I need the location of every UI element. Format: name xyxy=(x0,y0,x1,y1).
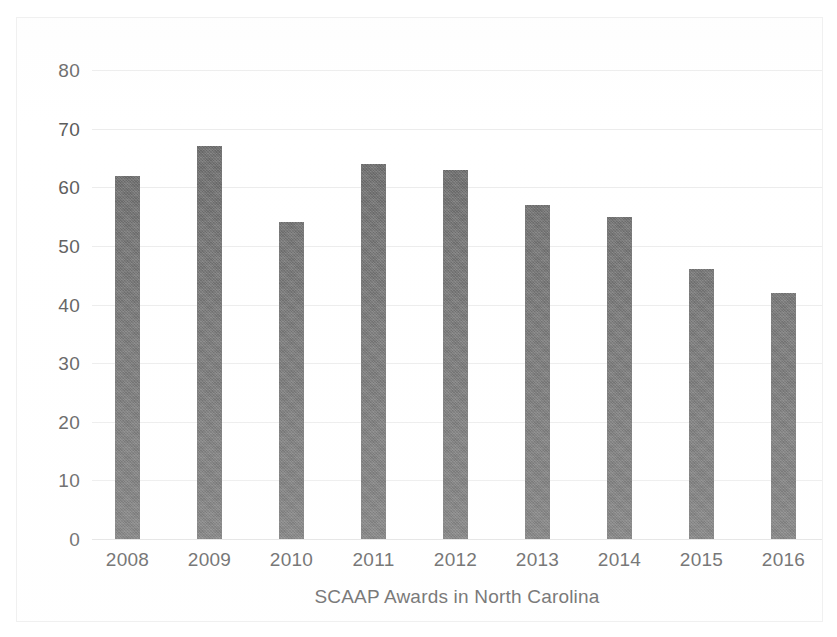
bar xyxy=(361,164,386,539)
bar xyxy=(771,293,796,539)
y-axis-tick-label: 40 xyxy=(25,295,80,314)
bar xyxy=(689,269,714,539)
gridline xyxy=(92,129,822,130)
bar xyxy=(443,170,468,539)
y-axis-tick-label: 10 xyxy=(25,471,80,490)
x-axis-title: SCAAP Awards in North Carolina xyxy=(92,586,822,608)
x-axis-tick-label: 2009 xyxy=(175,550,245,571)
x-axis-tick-label: 2008 xyxy=(93,550,163,571)
bar xyxy=(525,205,550,539)
chart-frame: 01020304050607080 2008200920102011201220… xyxy=(16,17,823,622)
x-axis-tick-label: 2015 xyxy=(667,550,737,571)
bar xyxy=(197,146,222,539)
y-axis-tick-label: 80 xyxy=(25,61,80,80)
x-axis-tick-label: 2014 xyxy=(585,550,655,571)
x-axis-tick-label: 2013 xyxy=(503,550,573,571)
x-axis-tick-label: 2011 xyxy=(339,550,409,571)
y-axis-tick-label: 70 xyxy=(25,119,80,138)
y-axis-tick-label: 20 xyxy=(25,412,80,431)
x-axis-tick-label: 2010 xyxy=(257,550,327,571)
y-axis-tick-label: 60 xyxy=(25,178,80,197)
gridline xyxy=(92,539,822,540)
y-axis-tick-label: 0 xyxy=(25,530,80,549)
y-axis-tick-label: 30 xyxy=(25,354,80,373)
x-axis: 200820092010201120122013201420152016 xyxy=(92,550,822,578)
x-axis-tick-label: 2016 xyxy=(749,550,819,571)
bar xyxy=(115,176,140,539)
bar xyxy=(607,217,632,539)
bar xyxy=(279,222,304,539)
y-axis: 01020304050607080 xyxy=(17,70,80,539)
plot-area xyxy=(92,70,822,539)
y-axis-tick-label: 50 xyxy=(25,236,80,255)
x-axis-tick-label: 2012 xyxy=(421,550,491,571)
gridline xyxy=(92,70,822,71)
